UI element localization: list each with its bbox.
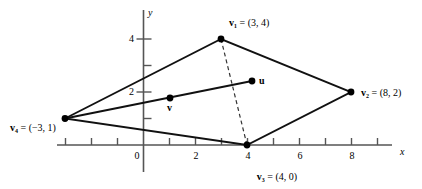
x-axis-label: x (400, 147, 404, 157)
point-dot-v2 (348, 89, 355, 96)
y-tick-label-2: 2 (129, 87, 134, 97)
quadrilateral-outline (65, 39, 351, 145)
segment-v4-u (65, 81, 252, 119)
point-dot-v1 (218, 36, 225, 43)
x-tick-label-6: 6 (298, 151, 303, 161)
point-dot-v (167, 95, 174, 102)
y-tick-label-4: 4 (129, 34, 134, 44)
x-tick-label-4: 4 (246, 151, 251, 161)
point-dot-v3 (244, 142, 251, 149)
y-axis-label: y (148, 8, 152, 18)
x-tick-label-2: 2 (194, 151, 199, 161)
dashed-segment-v1-v3 (221, 39, 247, 145)
point-label-v3: v₃ = (4, 0) (257, 172, 297, 182)
point-dot-v4 (62, 115, 69, 122)
point-label-v2: v₂ = (8, 2) (361, 88, 401, 98)
point-label-v4: v₄ = (−3, 1) (10, 123, 56, 133)
x-tick-label-8: 8 (350, 151, 355, 161)
point-label-v1: v₁ = (3, 4) (229, 18, 269, 28)
point-dot-u (249, 78, 256, 85)
point-label-u: u (259, 76, 265, 86)
origin-tick-label: 0 (135, 151, 140, 161)
plot-canvas (0, 0, 422, 189)
point-label-v: v (167, 103, 172, 113)
vector-diagram-figure: x y 0 2 4 6 8 2 4 v₁ = (3, 4) v₂ = (8, 2… (0, 0, 422, 189)
